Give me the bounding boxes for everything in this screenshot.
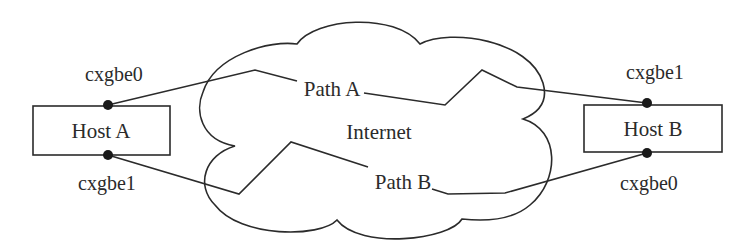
host-a-label: Host A xyxy=(72,119,132,143)
path-b-label: Path B xyxy=(375,170,432,194)
path-b-line-right xyxy=(432,153,647,194)
host-b-cxgbe0-port xyxy=(642,148,652,158)
host-a: Host A cxgbe0 cxgbe1 xyxy=(33,63,170,195)
host-b: Host B cxgbe1 cxgbe0 xyxy=(584,61,722,195)
host-a-cxgbe0-port xyxy=(103,100,113,110)
host-a-cxgbe0-label: cxgbe0 xyxy=(85,63,143,86)
host-a-cxgbe1-port xyxy=(103,150,113,160)
network-diagram: Host A cxgbe0 cxgbe1 Host B cxgbe1 cxgbe… xyxy=(0,0,753,252)
internet-label: Internet xyxy=(346,120,411,144)
host-b-cxgbe1-label: cxgbe1 xyxy=(626,61,684,84)
path-a-label: Path A xyxy=(304,77,361,101)
host-a-cxgbe1-label: cxgbe1 xyxy=(78,172,136,195)
host-b-cxgbe1-port xyxy=(642,98,652,108)
host-b-label: Host B xyxy=(624,117,683,141)
path-a-line-right xyxy=(364,70,647,105)
host-b-cxgbe0-label: cxgbe0 xyxy=(620,172,678,195)
